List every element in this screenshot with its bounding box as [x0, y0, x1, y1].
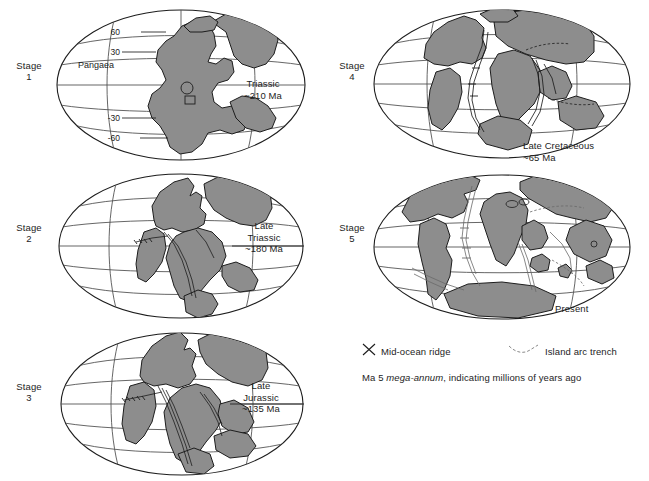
latitude-label-60n: 60 — [111, 27, 121, 37]
legend-item-mid-ocean-ridge: Mid-ocean ridge — [362, 342, 451, 360]
legend-note-prefix: Ma 5 — [362, 372, 386, 383]
legend-item-island-arc-trench: Island arc trench — [508, 342, 617, 360]
legend-note-italic: mega-annum — [386, 372, 443, 383]
latitude-label-30n: 30 — [111, 47, 121, 57]
legend: Mid-ocean ridge Island arc trench Ma 5 m… — [362, 336, 649, 396]
legend-note: Ma 5 mega-annum, indicating millions of … — [362, 372, 581, 383]
stage-label-3: Stage 3 — [8, 381, 50, 403]
era-label-1: Triassic ~210 Ma — [226, 78, 300, 101]
era-label-2: Late Triassic ~180 Ma — [228, 220, 300, 255]
era-label-3: Late Jurassic ~135 Ma — [224, 380, 298, 415]
map-panel-stage-4 — [372, 6, 632, 162]
pangaea-label: Pangaea — [78, 60, 114, 70]
map-panel-stage-5 — [372, 172, 632, 322]
latitude-label-30s: -30 — [108, 113, 121, 123]
stage-label-5: Stage 5 — [331, 222, 373, 244]
stage-label-4: Stage 4 — [331, 60, 373, 82]
continental-drift-figure: 60 30 -30 -60 Pangaea Stage 1 Triassic ~… — [0, 0, 649, 481]
mid-ocean-ridge-icon — [362, 342, 376, 360]
legend-label-mid-ocean-ridge: Mid-ocean ridge — [381, 346, 451, 357]
legend-label-island-arc-trench: Island arc trench — [545, 346, 617, 357]
island-arc-trench-icon — [508, 342, 540, 360]
stage-label-2: Stage 2 — [8, 222, 50, 244]
stage-label-1: Stage 1 — [8, 60, 50, 82]
era-label-4: Late Cretaceous ~65 Ma — [523, 140, 643, 163]
legend-note-suffix: , indicating millions of years ago — [443, 372, 581, 383]
era-label-5: Present — [555, 303, 625, 315]
latitude-label-60s: -60 — [108, 133, 121, 143]
